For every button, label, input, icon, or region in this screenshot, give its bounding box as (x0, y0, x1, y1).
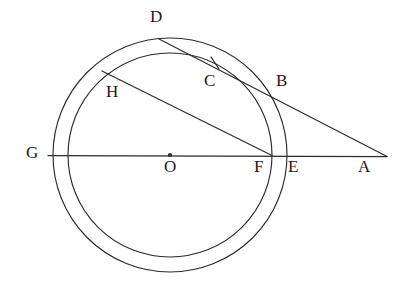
point-label-G: G (26, 144, 38, 161)
point-label-E: E (288, 158, 298, 175)
point-label-O: O (164, 158, 176, 175)
geometry-figure: D C B H G O F E A (0, 0, 412, 293)
diameter-line-GA (48, 156, 387, 157)
point-label-F: F (254, 158, 263, 175)
secant-line-DA (159, 39, 387, 157)
point-label-A: A (358, 158, 370, 175)
point-label-H: H (106, 83, 118, 100)
point-label-D: D (150, 8, 162, 25)
figure-canvas (0, 0, 412, 293)
point-label-C: C (204, 72, 215, 89)
point-label-B: B (276, 72, 287, 89)
